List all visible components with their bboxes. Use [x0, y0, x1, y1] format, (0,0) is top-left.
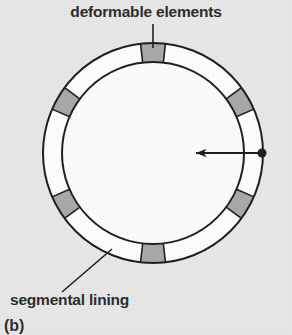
segmental-lining-diagram: deformable elements segmental lining (b) [0, 0, 292, 335]
segmental-lining-leader [62, 249, 112, 292]
deformable-element [140, 242, 165, 264]
arrow-anchor-dot [258, 149, 267, 158]
deformable-elements-label: deformable elements [70, 3, 221, 20]
segmental-lining-label: segmental lining [10, 291, 129, 308]
figure-container: deformable elements segmental lining (b) [0, 0, 292, 335]
figure-caption: (b) [4, 317, 24, 334]
